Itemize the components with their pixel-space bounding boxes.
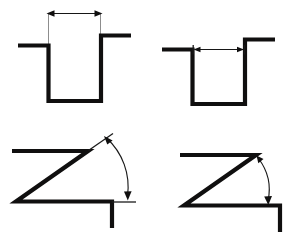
panel-bottom-left	[12, 134, 136, 229]
angle-arc	[107, 138, 129, 196]
drawing-canvas	[0, 0, 289, 250]
z-profile-outline	[12, 151, 112, 228]
angle-arc	[259, 159, 270, 202]
panel-top-right	[162, 40, 275, 105]
panel-bottom-right	[180, 155, 280, 232]
technical-drawing-figure	[0, 0, 289, 250]
panel-top-left	[18, 10, 131, 101]
arrow-head-right-icon	[95, 10, 103, 16]
z-profile-outline	[180, 155, 280, 232]
arrow-head-arc-end-icon	[124, 191, 132, 200]
channel-profile-outline	[18, 36, 131, 102]
arrow-head-arc-start-icon	[257, 156, 264, 164]
arrow-head-left-icon	[47, 10, 55, 16]
